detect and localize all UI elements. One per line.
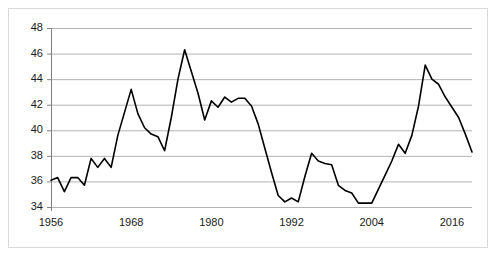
x-axis-tick-label: 1992 — [267, 216, 317, 228]
x-axis-tick-label: 1956 — [26, 216, 76, 228]
x-axis-tick-label: 2016 — [427, 216, 477, 228]
y-axis-tick-label: 48 — [13, 21, 43, 33]
x-axis-tick-label: 2004 — [347, 216, 397, 228]
y-axis-tick-label: 36 — [13, 174, 43, 186]
tick-marks — [47, 29, 52, 212]
x-axis-tick-label: 1968 — [106, 216, 156, 228]
data-series-line — [51, 50, 472, 203]
y-axis-tick-label: 40 — [13, 123, 43, 135]
chart-container: 3436384042444648 19561968198019922004201… — [0, 0, 497, 258]
x-axis-tick-label: 1980 — [186, 216, 236, 228]
series-line — [51, 50, 472, 203]
gridlines — [51, 29, 472, 208]
y-axis-tick-label: 42 — [13, 98, 43, 110]
y-axis-tick-label: 38 — [13, 149, 43, 161]
y-axis-tick-label: 44 — [13, 72, 43, 84]
y-axis-tick-label: 34 — [13, 200, 43, 212]
y-axis-tick-label: 46 — [13, 47, 43, 59]
